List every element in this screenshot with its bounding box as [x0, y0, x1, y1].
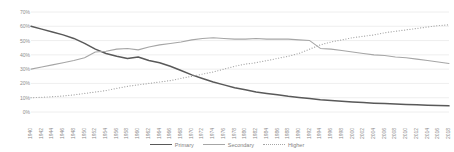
plot-area	[31, 12, 449, 112]
legend-item-primary[interactable]: Primary	[150, 143, 194, 149]
x-tick-label: 1982	[253, 128, 258, 139]
x-tick-label: 2018	[446, 128, 451, 139]
series-line-primary	[31, 26, 449, 106]
x-tick-label: 1978	[232, 128, 237, 139]
line-chart: 0%10%20%30%40%50%60%70% 1940194219441946…	[0, 0, 454, 152]
x-tick-label: 1962	[146, 128, 151, 139]
x-tick-label: 1976	[221, 128, 226, 139]
x-tick-label: 2004	[371, 128, 376, 139]
x-tick-label: 1954	[103, 128, 108, 139]
x-tick-label: 2010	[403, 128, 408, 139]
x-tick-label: 1974	[210, 128, 215, 139]
y-tick-label: 50%	[20, 38, 30, 43]
x-tick-label: 1968	[178, 128, 183, 139]
x-tick-label: 1996	[328, 128, 333, 139]
y-tick-label: 0%	[23, 110, 30, 115]
x-tick-label: 1970	[189, 128, 194, 139]
x-tick-label: 1948	[71, 128, 76, 139]
series-line-higher	[31, 25, 449, 98]
x-tick-label: 1958	[124, 128, 129, 139]
x-tick-label: 1990	[296, 128, 301, 139]
x-tick-label: 2008	[392, 128, 397, 139]
series-line-secondary	[31, 38, 449, 69]
y-tick-label: 20%	[20, 81, 30, 86]
x-tick-label: 1992	[307, 128, 312, 139]
x-tick-label: 1960	[135, 128, 140, 139]
legend-swatch-icon	[150, 144, 172, 148]
x-tick-label: 1986	[275, 128, 280, 139]
legend-swatch-icon	[203, 144, 225, 148]
x-tick-label: 2012	[414, 128, 419, 139]
legend-item-secondary[interactable]: Secondary	[203, 143, 254, 149]
chart-legend: PrimarySecondaryHigher	[0, 139, 454, 152]
x-tick-label: 1966	[167, 128, 172, 139]
x-tick-label: 1984	[264, 128, 269, 139]
y-axis: 0%10%20%30%40%50%60%70%	[0, 0, 30, 152]
x-tick-label: 2002	[360, 128, 365, 139]
x-tick-label: 2016	[435, 128, 440, 139]
legend-label: Primary	[175, 143, 194, 149]
x-tick-label: 1946	[60, 128, 65, 139]
x-tick-label: 1952	[92, 128, 97, 139]
x-tick-label: 2006	[382, 128, 387, 139]
series-lines	[31, 25, 449, 106]
x-tick-label: 1972	[199, 128, 204, 139]
plot-svg	[31, 12, 449, 112]
y-tick-label: 30%	[20, 67, 30, 72]
x-tick-label: 1950	[82, 128, 87, 139]
x-tick-label: 1964	[157, 128, 162, 139]
x-tick-label: 1944	[49, 128, 54, 139]
x-tick-label: 2000	[350, 128, 355, 139]
x-tick-label: 1956	[114, 128, 119, 139]
legend-swatch-icon	[263, 144, 285, 148]
y-tick-label: 70%	[20, 10, 30, 15]
y-tick-label: 10%	[20, 95, 30, 100]
x-tick-label: 1994	[317, 128, 322, 139]
x-axis: 1940194219441946194819501952195419561958…	[31, 113, 449, 139]
legend-label: Secondary	[228, 143, 254, 149]
legend-item-higher[interactable]: Higher	[263, 143, 304, 149]
y-tick-label: 40%	[20, 52, 30, 57]
x-tick-label: 1942	[39, 128, 44, 139]
y-tick-label: 60%	[20, 24, 30, 29]
legend-label: Higher	[288, 143, 304, 149]
gridlines	[31, 12, 449, 112]
x-tick-label: 2014	[425, 128, 430, 139]
x-tick-label: 1980	[242, 128, 247, 139]
x-tick-label: 1998	[339, 128, 344, 139]
x-tick-label: 1988	[285, 128, 290, 139]
x-tick-label: 1940	[28, 128, 33, 139]
